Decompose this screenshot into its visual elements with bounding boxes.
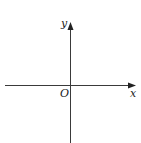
origin-label: O xyxy=(60,88,69,99)
x-axis-label: x xyxy=(130,88,136,99)
axes-svg xyxy=(0,0,141,143)
y-axis-label: y xyxy=(61,18,67,29)
coordinate-plane: y O x xyxy=(0,0,141,143)
y-axis-arrow-icon xyxy=(68,22,74,30)
